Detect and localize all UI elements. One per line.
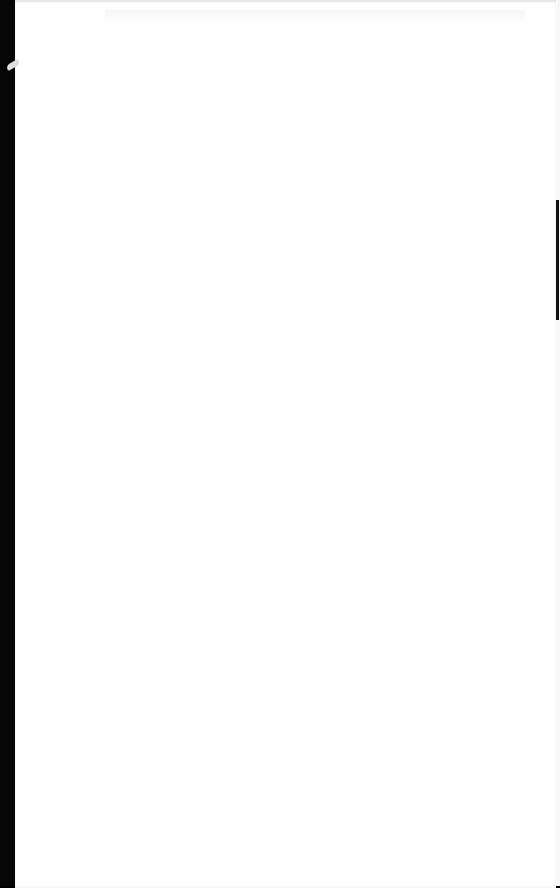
- blank-page: [15, 0, 556, 888]
- scan-background-right: [556, 200, 559, 320]
- scan-noise: [105, 10, 525, 24]
- scan-background-left: [0, 0, 15, 886]
- page-right-edge: [556, 0, 560, 886]
